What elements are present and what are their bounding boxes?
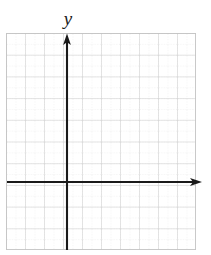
clipped-header-text: · · — [0, 0, 211, 3]
coordinate-plane-figure: · · y — [0, 0, 211, 255]
grid-lines — [6, 33, 196, 250]
y-axis-label: y — [57, 8, 79, 30]
grid-area — [6, 33, 196, 250]
